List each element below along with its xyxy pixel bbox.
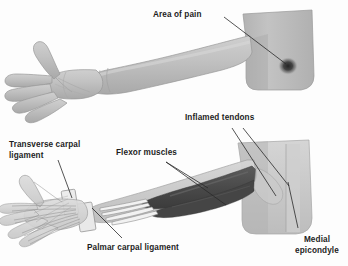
label-palmar-carpal-ligament: Palmar carpal ligament bbox=[87, 243, 179, 254]
label-transverse-carpal-ligament: Transverse carpal ligament bbox=[9, 140, 80, 161]
illustration-page: Area of pain Inflamed tendons Transverse… bbox=[0, 0, 348, 266]
area-of-pain-spot bbox=[278, 57, 298, 75]
surface-anatomy-panel bbox=[5, 10, 314, 123]
label-inflamed-tendons: Inflamed tendons bbox=[185, 113, 254, 124]
epicondyle-highlight bbox=[286, 144, 300, 232]
thumb-shape bbox=[33, 42, 60, 79]
label-area-of-pain: Area of pain bbox=[153, 10, 202, 21]
label-flexor-muscles: Flexor muscles bbox=[116, 148, 177, 159]
forearm-anatomy-figure bbox=[0, 0, 348, 266]
skeletal-thumb bbox=[19, 175, 44, 207]
label-medial-epicondyle: Medial epicondyle bbox=[288, 235, 346, 256]
forearm-shape bbox=[85, 36, 252, 94]
